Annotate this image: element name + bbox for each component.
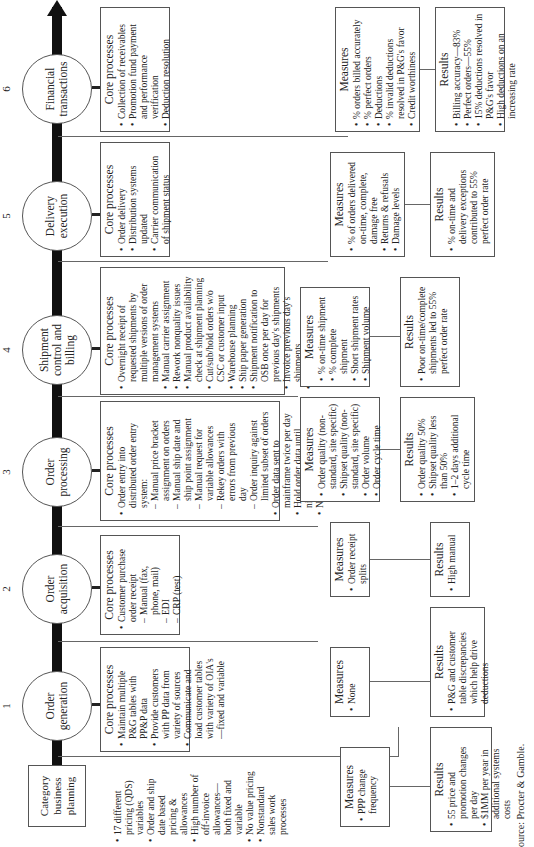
measures-order-acquisition: Measures Order receipt splits xyxy=(330,522,370,597)
start-box-category-planning: Category business planning xyxy=(28,765,86,827)
connector-line xyxy=(390,786,430,787)
measures-shipment-control: Measures % on-time shipment % complete s… xyxy=(300,287,370,387)
results-delivery-execution: Results % on-time and delivery exception… xyxy=(430,152,495,257)
measures-order-generation: Measures None xyxy=(330,647,370,717)
core-processes-order-generation: Core processes Maintain multiple P&G tab… xyxy=(100,647,190,752)
measures-financial-transactions: Measures % orders billed accurately % pe… xyxy=(335,7,420,132)
stage-number-4: 4 xyxy=(0,340,12,360)
results-planning: Results 55 price and promotion changes p… xyxy=(430,727,492,832)
connector xyxy=(92,703,100,706)
connector xyxy=(92,469,100,472)
source-note: ource: Procter & Gamble. xyxy=(515,744,526,847)
connector xyxy=(92,347,100,350)
separator-line xyxy=(58,526,318,527)
measures-planning: Measures PPP change frequency xyxy=(340,747,390,827)
core-processes-order-processing: Core processes Order entry into distribu… xyxy=(100,401,280,521)
measures-delivery-execution: Measures % of orders delivered on-time, … xyxy=(330,152,405,257)
connector-line xyxy=(370,681,430,682)
process-diagram: Category business planning 1 Order gener… xyxy=(0,0,534,847)
connector xyxy=(92,213,100,216)
results-order-processing: Results Order quality 50% Shipset qualit… xyxy=(400,397,475,502)
stage-circle-delivery-execution: Delivery execution xyxy=(22,181,92,251)
separator-line xyxy=(58,641,318,642)
measures-order-processing: Measures Order quality (non-standard, si… xyxy=(300,397,380,502)
connector-line xyxy=(405,204,430,205)
separator-line xyxy=(58,261,328,262)
connector-line xyxy=(370,336,400,337)
stage-number-6: 6 xyxy=(0,79,12,99)
stage-circle-order-acquisition: Order acquisition xyxy=(22,554,92,624)
separator-line xyxy=(58,396,298,397)
results-financial-transactions: Results Billing accuracy—83% Perfect ord… xyxy=(435,7,505,132)
connector-line xyxy=(398,727,399,757)
results-order-acquisition: Results High manual xyxy=(430,522,470,597)
stage-number-2: 2 xyxy=(0,579,12,599)
results-shipment-control: Results Poor on-time/complete shipments … xyxy=(400,277,460,387)
core-processes-shipment-control: Core processes Overnight receipt of requ… xyxy=(100,267,285,395)
core-processes-financial-transactions: Core processes Collection of receivables… xyxy=(100,7,170,132)
core-processes-delivery-execution: Core processes Order delivery Distributi… xyxy=(100,142,170,257)
connector-line xyxy=(380,449,400,450)
stage-number-5: 5 xyxy=(0,206,12,226)
core-processes-order-acquisition: Core processes Customer purchase order r… xyxy=(100,535,180,635)
connector xyxy=(92,86,100,89)
stage-number-1: 1 xyxy=(0,696,12,716)
results-order-generation: Results P&G and customer table discrepan… xyxy=(430,607,485,717)
flow-arrow-head xyxy=(47,0,67,16)
stage-circle-order-generation: Order generation xyxy=(22,671,92,741)
connector-line xyxy=(370,559,430,560)
stage-number-3: 3 xyxy=(0,462,12,482)
connector-line xyxy=(420,69,435,70)
stage-circle-order-processing: Order processing xyxy=(22,437,92,507)
separator-line xyxy=(58,136,348,137)
stage-circle-shipment-control: Shipment control and billing xyxy=(22,315,92,385)
issues-box: 17 different pricing (QDS) variables Ord… xyxy=(110,762,250,847)
connector xyxy=(92,586,100,589)
stage-circle-financial-transactions: Financial transactions xyxy=(22,54,92,124)
